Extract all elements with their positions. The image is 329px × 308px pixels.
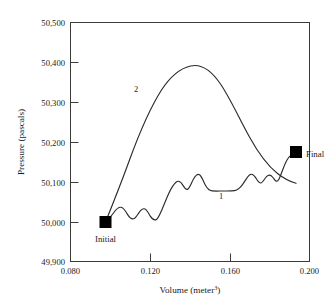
curve-2-label: 2 [134, 85, 138, 94]
y-tick-label-50100: 50,100 [41, 178, 65, 188]
x-tick-label-0160: 0.160 [221, 266, 240, 276]
y-tick-label-50400: 50,400 [41, 58, 65, 68]
pressure-volume-chart: 50,500 50,400 50,300 50,200 50,100 50,00… [0, 0, 329, 308]
y-tick-label-50200: 50,200 [41, 138, 65, 148]
final-marker [290, 146, 302, 158]
x-tick-label-0080: 0.080 [61, 266, 80, 276]
y-axis-title: Pressure (pascals) [16, 109, 26, 175]
x-axis-title: Volume (meter3) [160, 284, 221, 295]
x-axis-title-main: Volume (meter [160, 285, 215, 295]
chart-svg: 50,500 50,400 50,300 50,200 50,100 50,00… [0, 0, 329, 308]
y-tick-label-50000: 50,000 [41, 218, 65, 228]
final-label: Final [306, 149, 325, 159]
x-tick-label-0200: 0.200 [300, 266, 319, 276]
x-axis-title-close: ) [217, 285, 220, 295]
y-tick-label-50300: 50,300 [41, 98, 65, 108]
y-tick-label-50500: 50,500 [41, 18, 65, 28]
curve-1-label: 1 [219, 192, 223, 201]
initial-label: Initial [95, 234, 117, 244]
x-tick-label-0120: 0.120 [141, 266, 160, 276]
initial-marker [100, 216, 112, 228]
